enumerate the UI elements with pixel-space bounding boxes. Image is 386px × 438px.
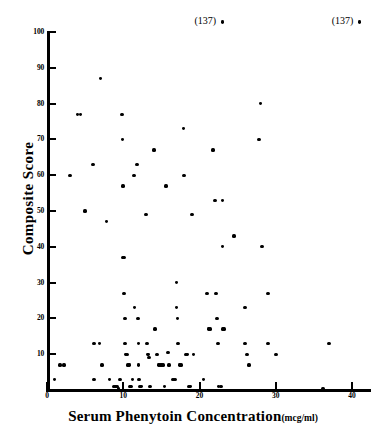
y-tick-label: 30 — [37, 279, 44, 287]
data-point — [99, 77, 103, 80]
data-point — [266, 342, 270, 345]
data-point — [123, 317, 127, 320]
data-point — [79, 113, 83, 116]
data-point — [221, 245, 225, 248]
data-point — [98, 342, 102, 345]
data-point — [259, 102, 263, 105]
x-tick-label: 10 — [113, 391, 133, 400]
data-point — [144, 213, 148, 216]
data-point — [232, 234, 236, 237]
x-tick-label: 30 — [266, 391, 286, 400]
data-point — [182, 127, 186, 130]
y-tick-mark — [49, 317, 56, 319]
x-axis-title-text: Serum Phenytoin Concentration — [68, 408, 281, 424]
data-point — [216, 342, 220, 345]
data-point — [274, 353, 278, 356]
x-tick-mark — [351, 382, 353, 390]
y-tick-mark — [49, 246, 56, 248]
data-point — [213, 199, 217, 202]
y-tick-mark — [49, 353, 56, 355]
data-point — [202, 378, 206, 381]
data-point — [132, 174, 136, 177]
data-point — [221, 199, 225, 202]
x-axis-title: Serum Phenytoin Concentration(mcg/ml) — [0, 408, 386, 425]
data-point — [122, 256, 126, 259]
offscale-data-point — [221, 20, 225, 23]
x-tick-label: 20 — [190, 391, 210, 400]
data-point — [161, 363, 165, 366]
data-point — [243, 306, 247, 309]
data-point — [148, 385, 152, 388]
data-point — [147, 356, 151, 359]
data-point — [91, 163, 95, 166]
data-point — [190, 213, 194, 216]
offscale-point-label: (137) — [194, 15, 216, 26]
data-point — [53, 378, 57, 381]
data-point — [155, 353, 159, 356]
data-point — [245, 353, 249, 356]
y-tick-label: 80 — [37, 100, 44, 108]
data-point — [136, 317, 140, 320]
data-point — [215, 317, 219, 320]
scatter-plot-figure: 102030405060708090100 010203040 (137)(13… — [0, 0, 386, 438]
data-point — [327, 342, 331, 345]
data-point — [133, 306, 137, 309]
data-point — [92, 378, 96, 381]
data-point — [219, 385, 223, 388]
data-point — [214, 292, 218, 295]
offscale-data-point — [358, 20, 362, 23]
data-point — [247, 363, 251, 366]
y-tick-mark — [49, 67, 56, 69]
y-tick-label: 60 — [37, 171, 44, 179]
data-point — [189, 385, 193, 388]
data-point — [125, 353, 129, 356]
data-point — [100, 363, 104, 366]
data-point — [140, 385, 144, 388]
data-point — [122, 292, 126, 295]
data-point — [123, 342, 127, 345]
data-point — [129, 385, 133, 388]
x-tick-mark — [122, 382, 124, 390]
data-point — [186, 353, 190, 356]
data-point — [83, 209, 87, 212]
data-point — [118, 378, 122, 381]
y-tick-mark — [49, 31, 56, 33]
data-point — [137, 363, 141, 366]
y-tick-mark — [49, 174, 56, 176]
data-point — [173, 378, 177, 381]
data-point — [152, 148, 156, 151]
data-point — [135, 163, 139, 166]
data-point — [211, 148, 215, 151]
data-point — [163, 385, 167, 388]
data-point — [321, 387, 325, 390]
data-point — [257, 138, 261, 141]
data-point — [192, 353, 196, 356]
y-tick-label: 100 — [33, 28, 44, 36]
data-point — [68, 174, 72, 177]
data-point — [176, 317, 180, 320]
data-point — [222, 327, 226, 330]
y-tick-mark — [49, 282, 56, 284]
data-point — [105, 220, 109, 223]
data-point — [137, 378, 141, 381]
x-tick-label: 40 — [342, 391, 362, 400]
data-point — [62, 363, 66, 366]
data-point — [175, 281, 179, 284]
data-point — [47, 363, 51, 366]
data-point — [120, 113, 124, 116]
y-tick-label: 90 — [37, 64, 44, 72]
y-tick-label: 20 — [37, 314, 44, 322]
data-point — [260, 245, 264, 248]
data-point — [121, 138, 125, 141]
y-tick-mark — [49, 138, 56, 140]
data-point — [92, 342, 96, 345]
data-point — [179, 363, 183, 366]
y-tick-mark — [49, 210, 56, 212]
y-tick-label: 40 — [37, 243, 44, 251]
data-point — [121, 184, 125, 187]
data-point — [153, 327, 157, 330]
data-point — [176, 342, 180, 345]
data-point — [243, 342, 247, 345]
data-point — [131, 378, 135, 381]
data-point — [108, 378, 112, 381]
